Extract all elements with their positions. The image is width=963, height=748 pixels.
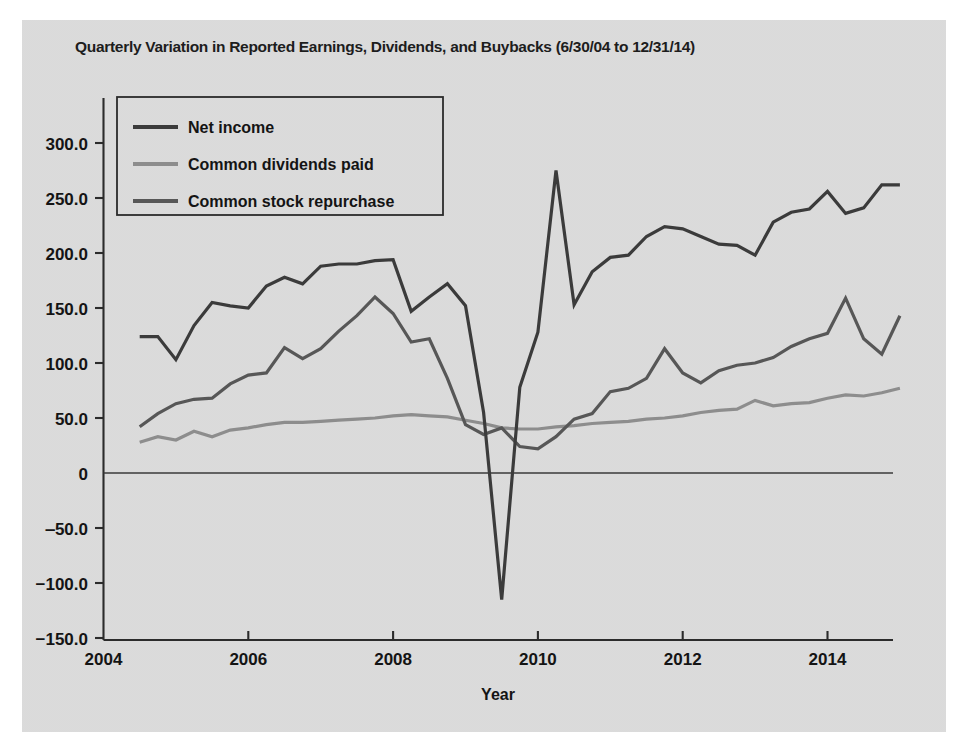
x-tick-label-2006: 2006	[229, 650, 267, 669]
legend-label-common-dividends-paid[interactable]: Common dividends paid	[188, 156, 374, 173]
x-tick-label-2010: 2010	[519, 650, 557, 669]
x-axis-tick-labels: 200420062008201020122014	[85, 650, 847, 669]
y-axis: 300.0250.0200.0150.0100.050.00‒50.0−100.…	[36, 98, 104, 649]
y-tick-label-300: 300.0	[45, 135, 88, 154]
data-series-group	[140, 171, 900, 600]
x-tick-label-2014: 2014	[809, 650, 847, 669]
y-tick-label--150: −150.0	[36, 630, 88, 649]
y-tick-label-250: 250.0	[45, 190, 88, 209]
chart-title: Quarterly Variation in Reported Earnings…	[75, 38, 695, 55]
series-line-net-income	[140, 171, 900, 600]
y-tick-label--100: −100.0	[36, 575, 88, 594]
chart-figure: Quarterly Variation in Reported Earnings…	[0, 0, 963, 748]
y-tick-label-100: 100.0	[45, 355, 88, 374]
x-tick-label-2012: 2012	[664, 650, 702, 669]
page-background: Quarterly Variation in Reported Earnings…	[0, 0, 963, 748]
legend-label-common-stock-repurchase[interactable]: Common stock repurchase	[188, 193, 394, 210]
x-axis-title: Year	[481, 686, 515, 703]
legend-label-net-income[interactable]: Net income	[188, 119, 274, 136]
chart-legend[interactable]: Net incomeCommon dividends paidCommon st…	[117, 97, 443, 215]
y-tick-label--50: ‒50.0	[44, 520, 88, 539]
x-tick-label-2004: 2004	[85, 650, 123, 669]
y-tick-label-0: 0	[79, 465, 88, 484]
y-tick-label-200: 200.0	[45, 245, 88, 264]
y-tick-label-50: 50.0	[55, 410, 88, 429]
y-tick-label-150: 150.0	[45, 300, 88, 319]
x-axis: 200420062008201020122014 Year	[85, 631, 893, 703]
y-axis-tick-labels: 300.0250.0200.0150.0100.050.00‒50.0−100.…	[36, 135, 88, 649]
x-tick-label-2008: 2008	[374, 650, 412, 669]
